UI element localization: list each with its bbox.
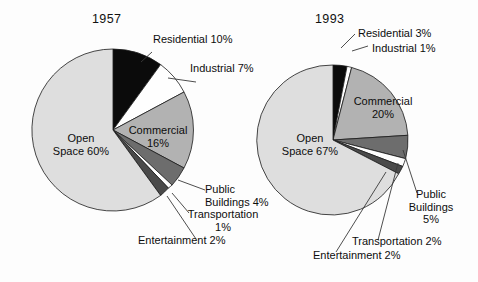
right-transportation-callout: Transportation 2% xyxy=(352,235,441,248)
right-residential-callout: Residential 3% xyxy=(358,27,431,40)
right-commercial-line2: 20% xyxy=(372,108,394,120)
right-commercial-line1: Commercial xyxy=(354,95,413,107)
right-public-line1: Public xyxy=(416,188,446,200)
right-public-line2: Buildings xyxy=(409,201,454,213)
right-open-space-line1: Open xyxy=(297,132,324,144)
left-residential-callout: Residential 10% xyxy=(153,33,233,46)
left-public-line1: Public xyxy=(205,183,235,195)
right-open-space-label: Open Space 67% xyxy=(268,132,352,157)
leader-industrial xyxy=(352,46,368,51)
leader-residential xyxy=(341,34,355,48)
right-public-line3: 5% xyxy=(423,213,439,225)
right-commercial-label: Commercial 20% xyxy=(343,95,423,120)
pie-chart-figure: 1957 Open Space 60% xyxy=(0,0,478,282)
right-public-buildings-callout: Public Buildings 5% xyxy=(400,188,462,226)
right-open-space-line2: Space 67% xyxy=(282,145,338,157)
left-open-space-line2: Space 60% xyxy=(53,145,109,157)
left-open-space-line1: Open xyxy=(68,132,95,144)
left-commercial-label: Commercial 16% xyxy=(122,124,194,149)
left-commercial-line2: 16% xyxy=(147,137,169,149)
leader-public-buildings xyxy=(403,150,417,193)
left-open-space-label: Open Space 60% xyxy=(39,132,123,157)
left-entertainment-callout: Entertainment 2% xyxy=(138,234,225,247)
right-industrial-callout: Industrial 1% xyxy=(372,42,436,55)
right-entertainment-callout: Entertainment 2% xyxy=(313,249,400,262)
left-transport-line2: 1% xyxy=(215,221,231,233)
left-commercial-line1: Commercial xyxy=(129,124,188,136)
leader-public-buildings xyxy=(178,180,205,190)
